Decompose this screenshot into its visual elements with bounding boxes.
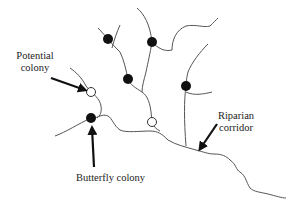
butterfly-colony-label: Butterfly colony [76, 172, 145, 184]
stream-network [0, 0, 292, 212]
label-line: colony [10, 62, 60, 74]
potential-colony-label: Potential colony [10, 50, 60, 74]
diagram-canvas: Potential colony Riparian corridor Butte… [0, 0, 292, 212]
riparian-corridor-label: Riparian corridor [210, 110, 262, 134]
right-spur [186, 92, 212, 94]
colony-marker [147, 37, 157, 47]
colony-marker [103, 34, 113, 44]
lower-left-tributary [55, 118, 91, 136]
colony-marker [86, 113, 96, 123]
potential-colony-marker [87, 88, 96, 97]
colony-marker [123, 74, 133, 84]
potential-colony-arrow [51, 78, 85, 90]
arrows [51, 78, 217, 167]
label-line: Potential [10, 50, 60, 62]
potential-tributary [70, 68, 101, 118]
butterfly-colony-arrow [92, 128, 94, 167]
label-text: Butterfly colony [76, 172, 145, 183]
upper-left-spur [112, 25, 120, 48]
potential-colonies [87, 88, 157, 127]
colony-marker [181, 81, 191, 91]
potential-colony-marker [148, 118, 157, 127]
label-line: Riparian [210, 110, 262, 122]
label-line: corridor [210, 122, 262, 134]
right-tributary [185, 44, 209, 146]
central-spur [152, 18, 218, 51]
central-tributary [137, 8, 152, 92]
streams [55, 8, 286, 198]
